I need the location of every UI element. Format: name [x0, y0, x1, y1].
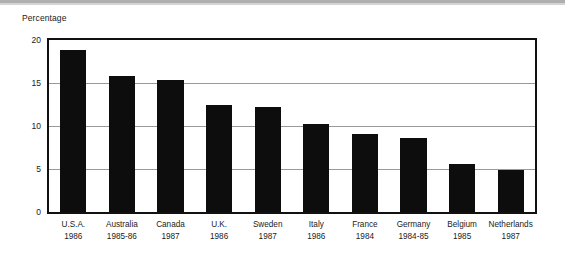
bar	[206, 105, 232, 213]
y-tick-label: 20	[15, 36, 41, 45]
y-tick-label: 5	[15, 165, 41, 174]
bar	[498, 170, 524, 212]
bar-series	[49, 40, 535, 212]
plot-frame	[47, 38, 537, 214]
bar	[60, 50, 86, 212]
x-tick-country: Netherlands	[489, 220, 533, 229]
x-tick-country: U.K.	[211, 220, 227, 229]
y-tick-label: 0	[15, 208, 41, 217]
bar	[449, 164, 475, 212]
bar	[400, 138, 426, 212]
y-tick-label: 10	[15, 122, 41, 131]
x-tick-country: Italy	[309, 220, 324, 229]
y-axis-title: Percentage	[22, 13, 66, 23]
x-tick-year: 1987	[473, 231, 549, 243]
bar	[352, 134, 378, 212]
x-tick-country: France	[352, 220, 377, 229]
bar	[157, 80, 183, 212]
x-axis-tick-labels: U.S.A.1986Australia1985-86Canada1987U.K.…	[47, 219, 537, 259]
bar	[109, 76, 135, 212]
y-tick-label: 15	[15, 79, 41, 88]
x-tick-country: U.S.A.	[61, 220, 85, 229]
chart-page: Percentage 05101520 U.S.A.1986Australia1…	[0, 0, 565, 263]
scan-artifact-top-secondary	[0, 3, 565, 5]
plot-area	[49, 40, 535, 212]
bar	[303, 124, 329, 212]
bar	[255, 107, 281, 212]
x-tick-label: Netherlands1987	[473, 219, 549, 242]
